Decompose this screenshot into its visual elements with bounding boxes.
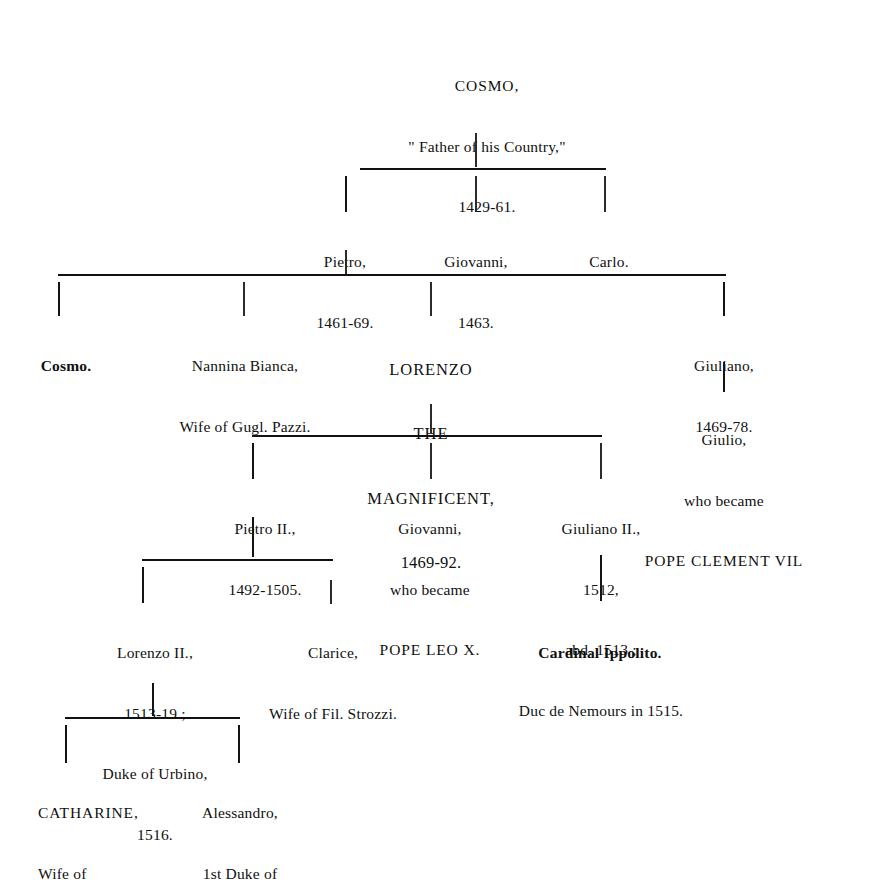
connector-to-giuliano — [723, 282, 725, 316]
connector-to-giuliano-ii — [600, 443, 602, 479]
person-name: Alessandro, — [140, 803, 340, 823]
connector-cosmo-to-children — [475, 133, 477, 167]
sibling-bar-generation-2 — [360, 168, 606, 170]
connector-to-lorenzo-ii — [142, 567, 144, 603]
person-name: Giulio, — [574, 430, 873, 450]
sibling-bar-generation-3 — [58, 274, 726, 276]
connector-lorenzo-to-children — [430, 404, 432, 434]
connector-to-nannina — [243, 282, 245, 316]
person-name: Giuliano II., — [441, 519, 761, 539]
genealogy-chart: COSMO, " Father of his Country," 1429-61… — [0, 0, 873, 886]
connector-to-lorenzo — [430, 282, 432, 316]
connector-to-carlo — [604, 176, 606, 212]
person-spouse: Wife of Fil. Strozzi. — [203, 704, 463, 724]
sibling-bar-generation-4 — [252, 435, 602, 437]
person-epithet: " Father of his Country," — [287, 137, 687, 157]
person-name: Carlo. — [509, 252, 709, 272]
connector-to-alessandro — [238, 725, 240, 763]
person-alessandro: Alessandro, 1st Duke of Tuscany, 1531-37… — [140, 763, 340, 886]
person-carlo: Carlo. — [509, 212, 709, 313]
connector-giuliano-ii-to-ippolito — [600, 555, 602, 601]
person-name-line-1: LORENZO — [301, 359, 561, 380]
connector-to-clarice — [330, 580, 332, 604]
sibling-bar-generation-6 — [65, 717, 240, 719]
person-title-line-1: 1st Duke of — [140, 864, 340, 884]
person-cardinal-ippolito: Cardinal Ippolito. — [450, 603, 750, 704]
connector-to-cosmo-younger — [58, 282, 60, 316]
person-name: Cardinal Ippolito. — [450, 643, 750, 663]
connector-giuliano-to-giulio — [723, 362, 725, 392]
connector-to-pietro-ii — [252, 443, 254, 479]
person-clarice: Clarice, Wife of Fil. Strozzi. — [203, 603, 463, 764]
connector-lorenzo-ii-to-children — [152, 683, 154, 716]
connector-pietro-to-children — [345, 250, 347, 274]
sibling-bar-generation-5 — [142, 559, 333, 561]
connector-pietro-ii-to-children — [252, 517, 254, 557]
person-name: COSMO, — [287, 76, 687, 96]
connector-to-pietro — [345, 176, 347, 212]
connector-to-catharine — [65, 725, 67, 763]
connector-to-giovanni-1463 — [475, 176, 477, 212]
connector-to-giovanni-pope-leo-x — [430, 443, 432, 479]
person-name: Clarice, — [203, 643, 463, 663]
